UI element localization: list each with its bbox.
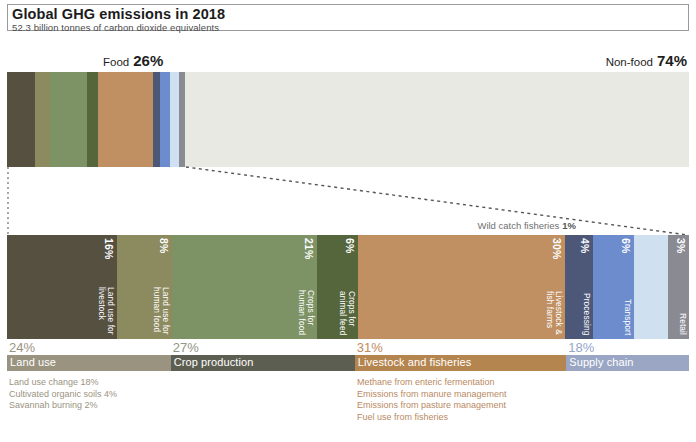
detail-segment-label: Land use for livestock bbox=[97, 287, 115, 335]
nonfood-share-label: Non-food74% bbox=[606, 52, 687, 69]
detail-segment-5: 30%Livestock & fish farms bbox=[358, 235, 565, 339]
legend-band-1: 24%Land use bbox=[7, 355, 171, 371]
nonfood-label-text: Non-food bbox=[606, 56, 653, 68]
detail-segment-1: 16%Land use for livestock bbox=[7, 235, 117, 339]
detail-segment-percent: 3% bbox=[675, 238, 687, 254]
legend-bar: 24%Land use27%Crop production31%Livestoc… bbox=[7, 355, 689, 371]
legend-percent: 27% bbox=[173, 340, 199, 355]
legend-percent: 31% bbox=[357, 340, 383, 355]
land-use-sublist: Land use change 18%Cultivated organic so… bbox=[9, 377, 117, 412]
legend-band-3: 31%Livestock and fisheries bbox=[355, 355, 566, 371]
detail-segment-label: Crops for animal feed bbox=[338, 291, 356, 335]
land-use-sub-item: Land use change 18% bbox=[9, 377, 117, 389]
overview-segment-processing bbox=[153, 72, 160, 167]
overview-segment-transport bbox=[160, 72, 171, 167]
detail-segment-label: Retail bbox=[678, 313, 687, 335]
detail-segment-percent: 6% bbox=[344, 238, 356, 254]
livestock-sub-item: Emissions from manure management bbox=[357, 389, 507, 401]
overview-segment-livestock-fish bbox=[98, 72, 153, 167]
detail-segment-percent: 6% bbox=[620, 238, 632, 254]
livestock-sub-item: Methane from enteric fermentation bbox=[357, 377, 507, 389]
food-share-label: Food26% bbox=[103, 52, 163, 69]
overview-stacked-bar bbox=[7, 72, 689, 167]
livestock-sub-item: Fuel use from fisheries bbox=[357, 412, 507, 424]
detail-segment-7: 6%Transport bbox=[593, 235, 634, 339]
wild-catch-percent: 1% bbox=[562, 220, 576, 231]
detail-segment-label: Processing bbox=[582, 293, 591, 335]
legend-label: Land use bbox=[10, 356, 56, 368]
detail-segment-2: 8%Land use for human food bbox=[117, 235, 172, 339]
detail-segment-label: Livestock & fish farms bbox=[545, 291, 563, 335]
overview-segment-crops-animal-feed bbox=[87, 72, 98, 167]
detail-segment-8 bbox=[634, 235, 668, 339]
land-use-sub-item: Cultivated organic soils 4% bbox=[9, 389, 117, 401]
food-percent: 26% bbox=[133, 52, 163, 69]
detail-segment-percent: 16% bbox=[103, 238, 115, 260]
page-title: Global GHG emissions in 2018 bbox=[12, 7, 688, 22]
legend-label: Livestock and fisheries bbox=[358, 356, 472, 368]
title-box: Global GHG emissions in 2018 52.3 billio… bbox=[7, 4, 689, 31]
overview-segment-non-food bbox=[185, 72, 689, 167]
detail-segment-percent: 21% bbox=[303, 238, 315, 260]
nonfood-percent: 74% bbox=[657, 52, 687, 69]
infographic-root: Global GHG emissions in 2018 52.3 billio… bbox=[0, 0, 696, 442]
detail-segment-3: 21%Crops for human food bbox=[172, 235, 317, 339]
food-label-text: Food bbox=[103, 56, 129, 68]
legend-percent: 18% bbox=[568, 340, 594, 355]
legend-label: Supply chain bbox=[569, 356, 633, 368]
legend-band-4: 18%Supply chain bbox=[566, 355, 689, 371]
page-subtitle: 52.3 billion tonnes of carbon dioxide eq… bbox=[12, 22, 688, 33]
detail-stacked-bar: 16%Land use for livestock8%Land use for … bbox=[7, 235, 689, 339]
detail-segment-6: 4%Processing bbox=[565, 235, 593, 339]
connector-lines bbox=[0, 160, 696, 240]
wild-catch-callout: Wild catch fisheries1% bbox=[477, 220, 576, 231]
overview-segment-crops-human-food bbox=[50, 72, 87, 167]
detail-segment-percent: 30% bbox=[551, 238, 563, 260]
livestock-sub-item: Emissions from pasture management bbox=[357, 400, 507, 412]
overview-segment-packaging bbox=[170, 72, 179, 167]
detail-segment-4: 6%Crops for animal feed bbox=[317, 235, 358, 339]
overview-segment-land-use-livestock bbox=[7, 72, 35, 167]
legend-percent: 24% bbox=[9, 340, 35, 355]
detail-segment-percent: 4% bbox=[579, 238, 591, 254]
detail-segment-label: Transport bbox=[623, 299, 632, 335]
detail-segment-label: Crops for human food bbox=[297, 290, 315, 335]
detail-segment-percent: 8% bbox=[158, 238, 170, 254]
wild-catch-label: Wild catch fisheries bbox=[477, 220, 559, 231]
livestock-sublist: Methane from enteric fermentationEmissio… bbox=[357, 377, 507, 423]
legend-label: Crop production bbox=[174, 356, 254, 368]
overview-segment-land-use-human-food bbox=[35, 72, 49, 167]
detail-segment-9: 3%Retail bbox=[668, 235, 689, 339]
detail-segment-label: Land use for human food bbox=[152, 287, 170, 335]
land-use-sub-item: Savannah burning 2% bbox=[9, 400, 117, 412]
legend-band-2: 27%Crop production bbox=[171, 355, 355, 371]
